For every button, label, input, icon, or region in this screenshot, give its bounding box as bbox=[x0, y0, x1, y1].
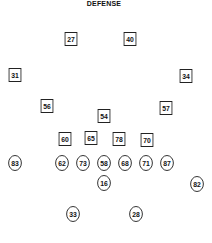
offensive-player-marker: 83 bbox=[8, 155, 22, 171]
defensive-player-marker: 54 bbox=[98, 109, 111, 123]
offensive-player-marker: 16 bbox=[97, 175, 111, 191]
defensive-player-marker: 40 bbox=[124, 32, 137, 46]
offensive-player-marker: 87 bbox=[160, 155, 174, 171]
offensive-player-marker: 58 bbox=[97, 155, 111, 171]
defensive-player-marker: 56 bbox=[41, 99, 54, 113]
defensive-player-marker: 34 bbox=[180, 69, 193, 83]
offensive-player-marker: 28 bbox=[129, 206, 143, 222]
offensive-player-marker: 71 bbox=[139, 155, 153, 171]
offensive-player-marker: 73 bbox=[76, 155, 90, 171]
defensive-player-marker: 65 bbox=[85, 131, 98, 145]
offensive-player-marker: 33 bbox=[66, 206, 80, 222]
offensive-player-marker: 68 bbox=[118, 155, 132, 171]
offensive-player-marker: 82 bbox=[190, 176, 204, 192]
defensive-player-marker: 57 bbox=[160, 101, 173, 115]
diagram-title: DEFENSE bbox=[0, 0, 208, 7]
defensive-player-marker: 78 bbox=[113, 132, 126, 146]
defensive-player-marker: 27 bbox=[65, 32, 78, 46]
defensive-player-marker: 70 bbox=[141, 133, 154, 147]
defensive-player-marker: 60 bbox=[59, 132, 72, 146]
offensive-player-marker: 62 bbox=[55, 155, 69, 171]
defensive-player-marker: 31 bbox=[9, 68, 22, 82]
